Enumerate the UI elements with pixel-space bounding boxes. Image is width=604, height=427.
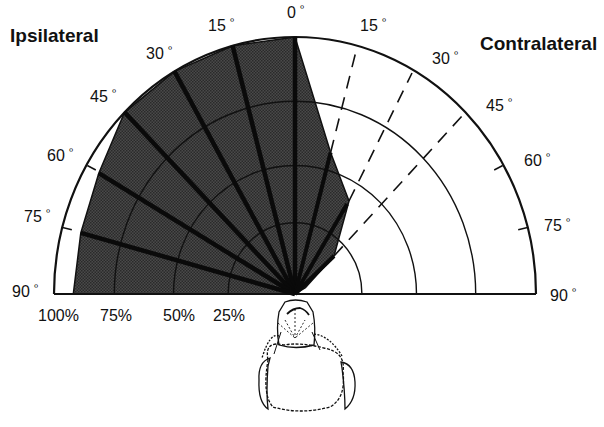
degree-symbol: º [546,151,550,162]
angle-label-ipsi-15: 15 º [208,17,234,35]
angle-value: 90 [550,287,568,304]
angle-value: 90 [12,283,30,300]
angle-label-ipsi-75: 75 º [24,208,50,226]
angle-label-contra-45: 45 º [486,97,512,115]
angle-label-contra-15: 15 º [360,17,386,35]
degree-symbol: º [69,146,73,157]
radial-label-50: 50% [163,307,195,325]
angle-label-contra-60: 60 º [524,152,550,170]
polar-chart [0,0,604,427]
angle-value: 45 [90,88,108,105]
degree-symbol: º [572,286,576,297]
degree-symbol: º [508,96,512,107]
degree-symbol: º [168,44,172,55]
angle-label-ipsi-30: 30 º [146,45,172,63]
ipsilateral-label: Ipsilateral [10,25,99,47]
angle-value: 15 [360,17,378,34]
angle-label-ipsi-60: 60 º [47,147,73,165]
degree-symbol: º [454,49,458,60]
angle-value: 45 [486,97,504,114]
angle-value: 75 [544,217,562,234]
head-illustration [259,300,355,411]
degree-symbol: º [230,16,234,27]
angle-label-contra-75: 75 º [544,217,570,235]
radial-label-100: 100% [38,307,79,325]
radial-label-25: 25% [213,307,245,325]
radial-label-75: 75% [100,307,132,325]
angle-value: 15 [208,17,226,34]
angle-value: 60 [47,147,65,164]
angle-label-ipsi-90: 90 º [12,283,38,301]
degree-symbol: º [300,3,304,14]
angle-value: 30 [432,50,450,67]
angle-label-0: 0 º [287,4,304,22]
angle-label-contra-90: 90 º [550,287,576,305]
degree-symbol: º [566,216,570,227]
degree-symbol: º [46,207,50,218]
angle-value: 60 [524,152,542,169]
degree-symbol: º [34,282,38,293]
angle-value: 0 [287,4,296,21]
degree-symbol: º [112,87,116,98]
angle-value: 75 [24,208,42,225]
angle-value: 30 [146,45,164,62]
angle-label-contra-30: 30 º [432,50,458,68]
angle-label-ipsi-45: 45 º [90,88,116,106]
degree-symbol: º [382,16,386,27]
contralateral-label: Contralateral [480,33,597,55]
